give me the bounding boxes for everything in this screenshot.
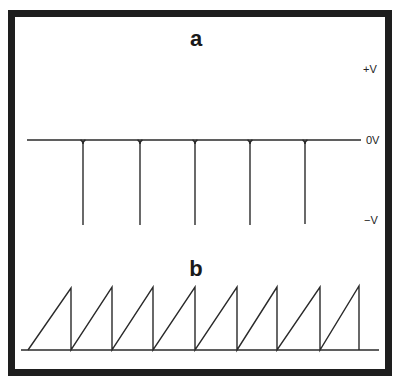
zero-voltage-label: 0V [366,134,380,146]
pulse-train [81,140,308,225]
panel-b: b [21,256,379,350]
panel-a: a +V 0V −V [27,26,380,226]
pulse [303,140,308,224]
negative-voltage-label: −V [364,214,378,226]
pulse [81,140,86,225]
pulse [248,140,253,225]
sawtooth-waveform [28,286,359,350]
figure-frame [12,14,389,373]
positive-voltage-label: +V [363,63,377,75]
pulse [138,140,143,225]
pulse [193,140,198,225]
waveform-diagram: a +V 0V −V [0,0,396,386]
panel-a-label: a [190,26,203,51]
panel-b-label: b [189,256,202,281]
